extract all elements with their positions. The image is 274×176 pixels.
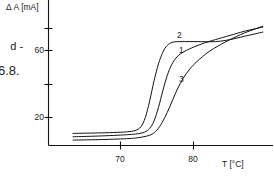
- data-curves: [73, 26, 263, 140]
- curve-series-3: [73, 26, 263, 140]
- figure-panel: d - 6.8. Δ A [mA] T [°C] 60 20 70 80 2 1…: [0, 0, 273, 176]
- curve-series-2: [73, 32, 263, 133]
- curve-series-1: [73, 27, 263, 137]
- plot-svg: [0, 0, 273, 176]
- axes: [49, 0, 274, 146]
